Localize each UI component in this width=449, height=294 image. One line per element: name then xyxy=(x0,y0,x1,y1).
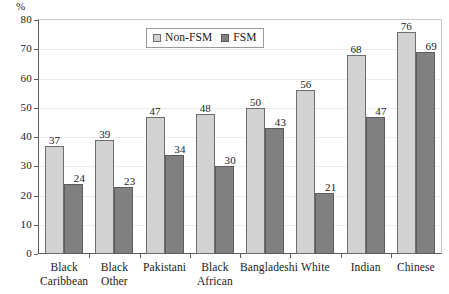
bar-value-label: 21 xyxy=(325,181,336,193)
bar-value-label: 23 xyxy=(124,175,135,187)
bar-fsm: 69 xyxy=(416,52,435,254)
bar-value-label: 34 xyxy=(174,143,185,155)
bar-nonfsm: 39 xyxy=(95,140,114,254)
bar-value-label: 47 xyxy=(375,105,386,117)
y-axis-tick xyxy=(34,20,38,21)
category-label-line: Chinese xyxy=(391,260,441,274)
y-axis-unit-label: % xyxy=(16,1,25,12)
y-axis-tick-label: 40 xyxy=(0,131,32,142)
bar-value-label: 76 xyxy=(401,20,412,32)
y-axis-tick xyxy=(34,49,38,50)
bar-fsm: 24 xyxy=(64,184,83,254)
bar-value-label: 43 xyxy=(275,116,286,128)
category-label-line: Pakistani xyxy=(140,260,190,274)
x-axis-category-label: Bangladeshi xyxy=(240,260,290,274)
y-axis-tick-label: 60 xyxy=(0,73,32,84)
y-axis-tick xyxy=(34,254,38,255)
x-axis-tick xyxy=(190,254,191,258)
category-label-line: Black xyxy=(89,260,139,274)
bar-group: 5621 xyxy=(296,20,334,254)
bar-nonfsm: 56 xyxy=(296,90,315,254)
x-axis-tick xyxy=(290,254,291,258)
bar-value-label: 56 xyxy=(300,78,311,90)
x-axis-category-label: White xyxy=(290,260,340,274)
bar-group: 4830 xyxy=(196,20,234,254)
category-label-line: Caribbean xyxy=(39,274,89,288)
bar-group: 3923 xyxy=(95,20,133,254)
bar-nonfsm: 68 xyxy=(347,55,366,254)
category-label-line: Other xyxy=(89,274,139,288)
bar-nonfsm: 50 xyxy=(246,108,265,254)
x-axis-category-label: BlackOther xyxy=(89,260,139,288)
bar-nonfsm: 47 xyxy=(146,117,165,254)
bar-nonfsm: 76 xyxy=(397,32,416,254)
x-axis-tick xyxy=(391,254,392,258)
category-label-line: African xyxy=(190,274,240,288)
y-axis-tick xyxy=(34,166,38,167)
bar-value-label: 24 xyxy=(74,172,85,184)
bar-group: 5043 xyxy=(246,20,284,254)
x-axis-tick xyxy=(140,254,141,258)
category-label-line: Indian xyxy=(341,260,391,274)
bar-value-label: 68 xyxy=(350,43,361,55)
legend-item-fsm: FSM xyxy=(221,31,256,44)
y-axis-tick-label: 80 xyxy=(0,14,32,25)
x-axis-tick xyxy=(89,254,90,258)
y-axis-tick-label: 30 xyxy=(0,160,32,171)
category-label-line: White xyxy=(290,260,340,274)
bar-value-label: 48 xyxy=(200,102,211,114)
y-axis-tick-label: 10 xyxy=(0,219,32,230)
x-axis-category-label: Pakistani xyxy=(140,260,190,274)
y-axis-tick xyxy=(34,137,38,138)
y-axis-tick xyxy=(34,196,38,197)
x-axis-category-label: Chinese xyxy=(391,260,441,274)
bar-nonfsm: 48 xyxy=(196,114,215,254)
bar-group: 6847 xyxy=(347,20,385,254)
y-axis-tick xyxy=(34,225,38,226)
y-axis-tick xyxy=(34,79,38,80)
legend-item-non-fsm: Non-FSM xyxy=(153,31,212,44)
legend-label-non-fsm: Non-FSM xyxy=(165,31,212,44)
chart-legend: Non-FSM FSM xyxy=(146,28,264,48)
bars-layer: 37243923473448305043562168477669 xyxy=(39,20,441,254)
category-label-line: Black xyxy=(190,260,240,274)
legend-swatch-fsm-icon xyxy=(221,34,229,42)
y-axis-tick-label: 50 xyxy=(0,102,32,113)
x-axis-category-label: Indian xyxy=(341,260,391,274)
legend-swatch-non-fsm-icon xyxy=(153,34,161,42)
x-axis-tick xyxy=(341,254,342,258)
category-label-line: Black xyxy=(39,260,89,274)
y-axis-tick-label: 70 xyxy=(0,43,32,54)
x-axis-tick xyxy=(240,254,241,258)
bar-value-label: 30 xyxy=(224,154,235,166)
bar-value-label: 39 xyxy=(99,128,110,140)
bar-fsm: 30 xyxy=(215,166,234,254)
bar-chart: % 01020304050607080 37243923473448305043… xyxy=(0,0,449,294)
legend-label-fsm: FSM xyxy=(233,31,256,44)
bar-group: 3724 xyxy=(45,20,83,254)
y-axis-tick-label: 20 xyxy=(0,190,32,201)
bar-fsm: 21 xyxy=(315,193,334,254)
bar-value-label: 37 xyxy=(49,134,60,146)
bar-fsm: 47 xyxy=(366,117,385,254)
bar-value-label: 50 xyxy=(250,96,261,108)
bar-nonfsm: 37 xyxy=(45,146,64,254)
x-axis-category-labels: BlackCaribbeanBlackOtherPakistaniBlackAf… xyxy=(39,260,441,294)
bar-fsm: 23 xyxy=(114,187,133,254)
bar-group: 4734 xyxy=(146,20,184,254)
x-axis-category-label: BlackCaribbean xyxy=(39,260,89,288)
category-label-line: Bangladeshi xyxy=(240,260,290,274)
bar-group: 7669 xyxy=(397,20,435,254)
y-axis-tick-label: 0 xyxy=(0,248,32,259)
bar-value-label: 47 xyxy=(149,105,160,117)
bar-fsm: 34 xyxy=(165,155,184,254)
x-axis-category-label: BlackAfrican xyxy=(190,260,240,288)
bar-value-label: 69 xyxy=(425,40,436,52)
y-axis-tick xyxy=(34,108,38,109)
bar-fsm: 43 xyxy=(265,128,284,254)
